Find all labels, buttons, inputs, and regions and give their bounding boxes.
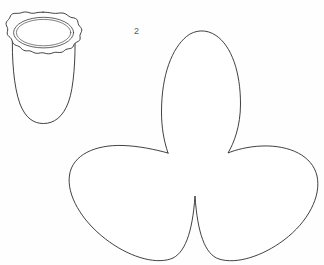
trefoil-outline (69, 31, 318, 261)
flowerpot-shape (6, 12, 82, 124)
pattern-artwork (0, 0, 324, 265)
flowerpot-rim-opening (14, 17, 74, 48)
artboard (0, 0, 324, 265)
pattern-piece-number-label: 2 (134, 26, 139, 37)
pattern-sheet-page: 2 (0, 0, 324, 265)
trefoil-shape (69, 31, 318, 261)
